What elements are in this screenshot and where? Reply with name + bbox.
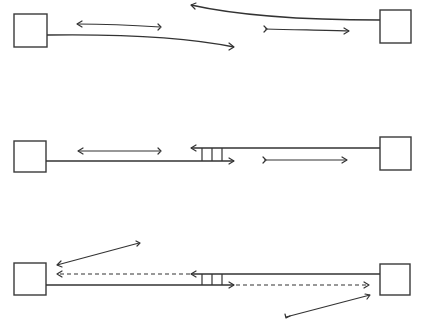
ladder-rungs-middle [202,148,222,161]
ladder-rungs-bottom [202,274,222,285]
diagram-canvas [0,0,424,321]
link-left-to-right-top [47,35,234,47]
panel-bottom [14,241,410,318]
panel-middle [14,137,411,172]
endpoint-box-right-top [380,10,411,43]
message-arrow-left-top [77,24,160,27]
diagonal-arrow-to-left-box [57,243,139,265]
endpoint-box-left-bottom [14,263,46,295]
endpoint-box-right-bottom [380,264,410,295]
diagonal-arrow-to-right-box [286,295,370,317]
panel-top [14,3,411,50]
message-arrow-right-top [265,29,349,31]
endpoint-box-left-top [14,14,47,47]
endpoint-box-left-middle [14,141,46,172]
link-right-to-left-top [191,5,380,20]
endpoint-box-right-middle [380,137,411,170]
